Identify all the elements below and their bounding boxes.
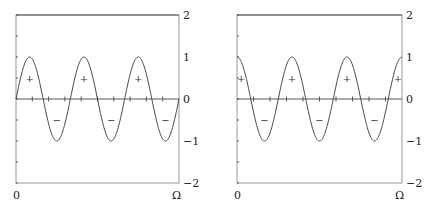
x-label-max: Ω <box>172 189 181 202</box>
y-label-one: 1 <box>183 51 190 64</box>
plus-marker: + <box>288 73 296 84</box>
plus-marker: + <box>237 73 245 84</box>
y-label-neg-one: −1 <box>183 135 199 148</box>
y-label-bottom: −2 <box>183 177 199 190</box>
plus-marker: + <box>343 73 351 84</box>
x-label-max: Ω <box>395 189 404 202</box>
x-label-min: 0 <box>234 189 241 202</box>
minus-marker: − <box>260 115 268 126</box>
y-label-zero: 0 <box>183 93 190 106</box>
y-label-one: 1 <box>406 51 413 64</box>
plus-marker: + <box>80 73 88 84</box>
plus-marker: + <box>25 73 33 84</box>
x-label-min: 0 <box>13 189 20 202</box>
y-label-neg-one: −1 <box>406 135 422 148</box>
minus-marker: − <box>161 115 169 126</box>
minus-marker: − <box>315 115 323 126</box>
y-label-top: 2 <box>406 9 413 22</box>
figure: +−+−+− 2 1 0 −1 −2 0 Ω +−+−+−+ 2 1 0 −1 … <box>0 0 431 209</box>
plot-left: +−+−+− 2 1 0 −1 −2 0 Ω <box>13 9 199 202</box>
plus-marker: + <box>394 73 402 84</box>
plot-right: +−+−+−+ 2 1 0 −1 −2 0 Ω <box>234 9 422 202</box>
minus-marker: − <box>107 115 115 126</box>
y-label-bottom: −2 <box>406 177 422 190</box>
y-label-zero: 0 <box>406 93 413 106</box>
minus-marker: − <box>53 115 61 126</box>
minus-marker: − <box>370 115 378 126</box>
y-label-top: 2 <box>183 9 190 22</box>
plus-marker: + <box>134 73 142 84</box>
